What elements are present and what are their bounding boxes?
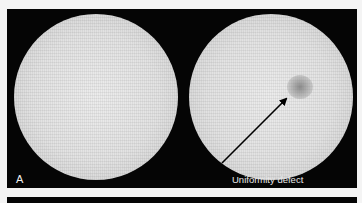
figure-panel-b-top-edge [7,197,357,203]
arrow-icon [7,9,357,188]
defect-annotation-label: Uniformity defect [232,174,303,185]
figure-panel-a: A Uniformity defect [7,9,357,188]
figure: A Uniformity defect [0,0,362,203]
panel-label: A [16,173,23,185]
